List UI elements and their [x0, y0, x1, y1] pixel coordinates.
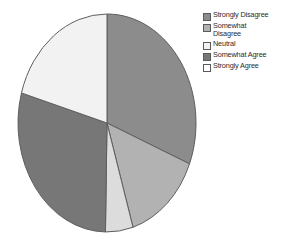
legend-item-strongly-disagree[interactable]: Strongly Disagree — [203, 11, 289, 21]
chart-legend: Strongly Disagree Somewhat Disagree Neut… — [203, 11, 289, 73]
legend-swatch-somewhat-disagree — [203, 24, 211, 32]
pie-chart-figure: Strongly Disagree Somewhat Disagree Neut… — [0, 0, 289, 245]
legend-label-neutral: Neutral — [213, 40, 235, 48]
legend-label-somewhat-disagree: Somewhat Disagree — [213, 22, 246, 39]
legend-swatch-somewhat-agree — [203, 53, 211, 61]
pie-chart-svg — [0, 0, 205, 245]
legend-item-somewhat-disagree[interactable]: Somewhat Disagree — [203, 22, 289, 39]
legend-swatch-neutral — [203, 42, 211, 50]
legend-swatch-strongly-disagree — [203, 13, 211, 21]
legend-label-somewhat-agree: Somewhat Agree — [213, 51, 266, 59]
pie-slice-group — [18, 14, 196, 232]
legend-label-strongly-agree: Strongly Agree — [213, 62, 259, 70]
legend-item-strongly-agree[interactable]: Strongly Agree — [203, 62, 289, 72]
legend-label-strongly-disagree: Strongly Disagree — [213, 11, 268, 19]
legend-item-neutral[interactable]: Neutral — [203, 40, 289, 50]
legend-swatch-strongly-agree — [203, 64, 211, 72]
pie-chart-plot-area — [0, 0, 205, 245]
legend-item-somewhat-agree[interactable]: Somewhat Agree — [203, 51, 289, 61]
